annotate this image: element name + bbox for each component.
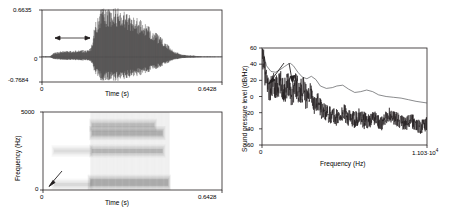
spectrogram-plot bbox=[0, 103, 232, 212]
spectrum-plot bbox=[232, 30, 466, 180]
spectrum-ytick-marks bbox=[259, 48, 262, 145]
figure-root: 0.6635 0 -0.7684 0 0.6428 Time (s) Nasal… bbox=[0, 0, 466, 212]
spectrum-panel: Sound pressure level (dB/Hz) Frequency (… bbox=[232, 30, 466, 180]
waveform-panel: 0.6635 0 -0.7684 0 0.6428 Time (s) Nasal… bbox=[0, 0, 232, 100]
waveform-plot bbox=[0, 0, 232, 100]
spectrogram-panel: 5000 0 Frequency (Hz) 0 0.6428 Time (s) … bbox=[0, 103, 232, 212]
